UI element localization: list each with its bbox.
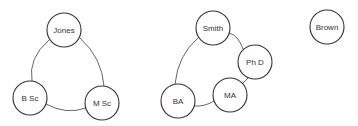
node-label: Brown: [316, 23, 339, 32]
node-label: Smith: [203, 24, 223, 33]
node-bsc[interactable]: B Sc: [13, 81, 47, 115]
node-jones[interactable]: Jones: [47, 13, 81, 47]
node-label: BA: [173, 97, 184, 106]
edge-bsc-msc: [46, 104, 86, 111]
node-phd[interactable]: Ph D: [238, 45, 272, 79]
edge-jones-msc: [80, 38, 104, 86]
node-smith[interactable]: Smith: [196, 11, 230, 45]
edge-phd-ma: [243, 78, 248, 83]
node-label: MA: [224, 91, 237, 100]
node-msc[interactable]: M Sc: [85, 86, 119, 120]
node-brown[interactable]: Brown: [310, 10, 344, 44]
diagram-canvas: Jones B Sc M Sc Smith Ph D MA BA Brown: [0, 0, 358, 126]
node-label: Ph D: [246, 58, 264, 67]
edge-smith-phd: [229, 33, 243, 49]
edge-ba-smith: [175, 38, 198, 84]
node-ba[interactable]: BA: [161, 84, 195, 118]
node-label: M Sc: [93, 99, 111, 108]
edge-jones-bsc: [31, 40, 49, 81]
node-ma[interactable]: MA: [213, 78, 247, 112]
edge-ma-ba: [194, 101, 214, 106]
node-label: Jones: [53, 26, 74, 35]
node-label: B Sc: [22, 94, 39, 103]
